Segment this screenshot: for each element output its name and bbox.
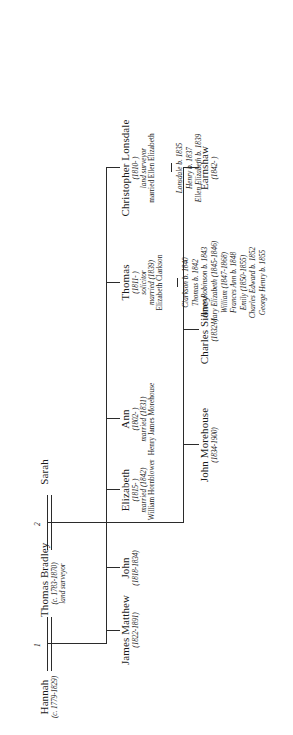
- marriage-number-1: 1: [33, 643, 42, 647]
- marriage-line-1: [47, 617, 52, 671]
- person-ann: Ann (1802- ) married (1831) Henry James …: [120, 371, 156, 467]
- child-entry: Charles Edward b. 1852: [248, 225, 258, 340]
- person-thomas-bradley: Thomas Bradley (c. 1783-1870) land surve…: [39, 550, 67, 617]
- person-name: Sarah: [39, 449, 51, 495]
- stub-john-morehouse: [183, 444, 199, 445]
- issue-tick-thomas: [177, 278, 178, 287]
- person-earnshaw: Earnshaw (1842- ): [199, 125, 219, 211]
- stub-earnshaw: [183, 167, 199, 168]
- marriage-number-2: 2: [33, 522, 42, 526]
- stub-christopher: [106, 167, 120, 168]
- stub-charles-sidney: [183, 329, 199, 330]
- person-dates: (1832- ): [211, 287, 219, 373]
- person-john-morehouse: John Morehouse (1834-1900): [199, 395, 219, 495]
- stub-ann: [106, 418, 120, 419]
- stub-john: [106, 567, 120, 568]
- person-marriage: married Ellen Elizabeth: [148, 119, 156, 217]
- stub-james-matthew: [106, 630, 120, 631]
- person-christopher-lonsdale: Christopher Lonsdale (1810- ) land surve…: [120, 119, 156, 217]
- family-tree-rotator: 1 2 Hannah (c. 1779-1829) Thomas Bradley…: [0, 0, 293, 735]
- children-list-thomas: Clarkson b. 1840Thomas b. 1842James Robi…: [181, 225, 268, 340]
- person-dates: (c. 1779-1829): [51, 671, 59, 723]
- person-marriage-spouse: Henry James Morehouse: [148, 371, 156, 467]
- person-dates: (1818-1834): [132, 537, 140, 599]
- child-entry: Henry b. 1837: [185, 113, 195, 223]
- person-occupation: land surveyor: [59, 550, 67, 617]
- descent-line-marriage-2: [48, 522, 183, 523]
- child-entry: Emily (1850-1855): [239, 225, 249, 340]
- person-dates: (1834-1900): [211, 395, 219, 495]
- stub-thomas: [106, 282, 120, 283]
- person-sarah: Sarah: [39, 449, 51, 495]
- child-entry: William (1847-1868): [220, 225, 230, 340]
- person-james-matthew: James Matthew (1822-1891): [120, 591, 140, 669]
- person-dates: (1822-1891): [132, 591, 140, 669]
- person-marriage-spouse: Elizabeth Clarkson: [156, 244, 164, 321]
- person-hannah: Hannah (c. 1779-1829): [39, 671, 59, 723]
- descent-line-marriage-1: [48, 643, 106, 644]
- person-dates: (1842- ): [211, 125, 219, 211]
- child-entry: Frances Ann b. 1848: [229, 225, 239, 340]
- child-entry: George Henry b. 1855: [258, 225, 268, 340]
- child-entry: Lonsdale b. 1835: [175, 113, 185, 223]
- person-charles-sidney: Charles Sidney (1832- ): [199, 287, 219, 373]
- issue-tick-christopher: [171, 163, 172, 172]
- stub-elizabeth: [106, 489, 120, 490]
- sibling-bus-marriage-1: [106, 168, 107, 644]
- family-tree-canvas: 1 2 Hannah (c. 1779-1829) Thomas Bradley…: [0, 0, 293, 735]
- child-entry: Clarkson b. 1840: [181, 225, 191, 340]
- person-thomas-solicitor: Thomas (1811- ) solicitor married (1839)…: [120, 244, 163, 321]
- person-john: John (1818-1834): [120, 537, 140, 599]
